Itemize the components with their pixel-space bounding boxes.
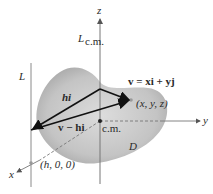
v-equation-label: v = xi + yj <box>128 75 175 87</box>
point-xyz-label: (x, y, z) <box>136 97 168 110</box>
line-cm-label: L <box>77 32 84 44</box>
hi-label: hi <box>62 91 72 103</box>
z-axis-label: z <box>96 4 102 16</box>
xyz-point <box>129 98 133 102</box>
x-axis-label: x <box>8 168 14 180</box>
v-minus-hi-label: v − hi <box>58 121 84 133</box>
line-cm-subscript: c.m. <box>85 35 104 47</box>
x-axis <box>17 160 40 172</box>
cm-label: c.m. <box>102 122 121 134</box>
h-point-label: (h, 0, 0) <box>40 158 75 171</box>
line-l-label: L <box>18 70 25 82</box>
h-point <box>29 161 33 165</box>
region-d-label: D <box>128 140 137 152</box>
y-axis-label: y <box>202 114 208 126</box>
center-of-mass-diagram: z y x L c.m. L hi v = xi + yj (x, y, z) … <box>0 0 213 194</box>
